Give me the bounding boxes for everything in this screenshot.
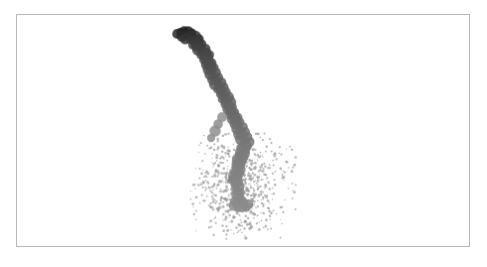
scatter-plot-canvas xyxy=(17,15,469,246)
screenshot-root xyxy=(0,0,487,267)
plot-frame xyxy=(16,14,470,247)
